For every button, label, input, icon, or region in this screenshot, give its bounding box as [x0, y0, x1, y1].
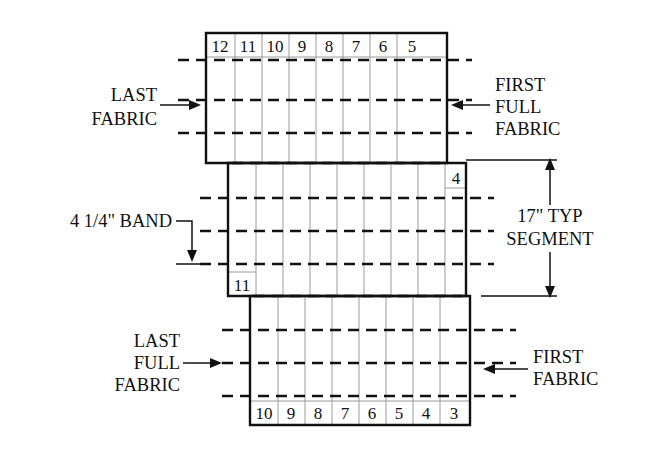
bottom-cell-label: 3	[450, 404, 459, 423]
annotation-label-line: FABRIC	[533, 369, 598, 389]
annotation-segment-dimension: 17" TYP SEGMENT	[466, 158, 594, 298]
bottom-panel-cell-dividers	[278, 296, 440, 425]
bottom-cell-label: 8	[314, 404, 323, 423]
bottom-cell-label: 10	[256, 404, 273, 423]
top-cell-label: 6	[379, 37, 388, 56]
middle-panel-outline	[228, 163, 466, 296]
middle-left-cell-label: 11	[234, 276, 250, 295]
arrow-left-icon	[451, 100, 463, 110]
diagram-canvas: 12 11 10 9 8 7 6 5	[0, 0, 649, 452]
arrow-left-icon	[483, 364, 495, 374]
top-cell-label: 9	[298, 37, 307, 56]
arrow-down-icon	[187, 250, 197, 262]
middle-right-cell-label: 4	[452, 169, 461, 188]
bottom-cell-label: 7	[341, 404, 350, 423]
top-panel: 12 11 10 9 8 7 6 5	[206, 33, 447, 163]
annotation-last-full-fabric: LAST FULL FABRIC	[115, 331, 222, 395]
bottom-panel: 10 9 8 7 6 5 4 3	[250, 296, 470, 425]
bottom-cell-label: 5	[395, 404, 404, 423]
annotation-label-line: FULL	[134, 353, 180, 373]
annotation-label-line: FULL	[495, 97, 541, 117]
arrow-right-icon	[189, 100, 201, 110]
bottom-panel-outline	[250, 296, 470, 425]
annotation-label-line: 17" TYP	[517, 206, 582, 226]
bottom-cell-label: 9	[287, 404, 296, 423]
annotation-first-full-fabric: FIRST FULL FABRIC	[451, 75, 560, 139]
top-cell-label: 8	[325, 37, 334, 56]
annotation-label-line: FABRIC	[92, 109, 157, 129]
annotation-band: 4 1/4" BAND	[70, 211, 210, 264]
annotation-label-line: SEGMENT	[506, 229, 593, 249]
annotation-label-line: FABRIC	[115, 375, 180, 395]
annotation-label-line: LAST	[134, 331, 180, 351]
bottom-cell-label: 4	[422, 404, 431, 423]
top-cell-label: 7	[352, 37, 361, 56]
top-cell-label: 10	[267, 37, 284, 56]
arrow-right-icon	[210, 358, 222, 368]
annotation-label-line: FABRIC	[495, 119, 560, 139]
annotation-last-fabric: LAST FABRIC	[92, 85, 201, 129]
middle-panel-cell-dividers	[256, 163, 445, 296]
bottom-cell-label: 6	[368, 404, 377, 423]
annotation-label-line: LAST	[111, 85, 157, 105]
annotation-label-line: FIRST	[495, 75, 545, 95]
middle-panel: 4 11	[228, 163, 466, 296]
fabric-segment-diagram: 12 11 10 9 8 7 6 5	[0, 0, 649, 452]
top-cell-label: 5	[408, 37, 417, 56]
annotation-first-fabric: FIRST FABRIC	[483, 347, 598, 389]
top-cell-label: 11	[240, 37, 256, 56]
leader-elbow	[176, 221, 192, 250]
annotation-label-line: FIRST	[533, 347, 583, 367]
annotation-label-line: 4 1/4" BAND	[70, 211, 172, 231]
top-panel-cell-dividers	[235, 33, 397, 163]
top-cell-label: 12	[212, 37, 229, 56]
